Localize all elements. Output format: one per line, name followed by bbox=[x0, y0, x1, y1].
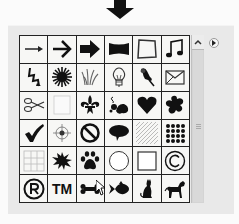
arrow-chevron-icon bbox=[51, 38, 73, 60]
ornament-flower-icon bbox=[108, 94, 130, 116]
heart-icon bbox=[136, 94, 158, 116]
shape-arrow-thin[interactable] bbox=[20, 36, 47, 63]
scroll-thumb[interactable] bbox=[193, 50, 203, 202]
starburst-icon bbox=[51, 66, 73, 88]
shape-no-sign[interactable] bbox=[77, 120, 104, 147]
flyout-menu-button[interactable] bbox=[209, 38, 219, 48]
shape-diagonal-hatch[interactable] bbox=[133, 120, 160, 147]
trademark-label: TM bbox=[52, 181, 72, 197]
shape-music-note[interactable] bbox=[162, 36, 189, 63]
shape-copyright[interactable] bbox=[162, 147, 189, 174]
scroll-grip-line bbox=[196, 124, 201, 125]
registered-icon bbox=[23, 178, 45, 200]
shape-registered[interactable] bbox=[20, 175, 47, 202]
speech-bubble-icon bbox=[108, 122, 130, 144]
shape-frame[interactable] bbox=[133, 36, 160, 63]
grass-icon bbox=[79, 66, 101, 88]
puzzle-blob-icon bbox=[164, 94, 186, 116]
scroll-grip-line bbox=[196, 126, 201, 127]
lightning-icon bbox=[23, 66, 45, 88]
shape-paw-print[interactable] bbox=[77, 147, 104, 174]
checkmark-icon bbox=[23, 122, 45, 144]
shape-ornament-flower[interactable] bbox=[105, 92, 132, 119]
shape-grid: TM bbox=[19, 35, 190, 203]
shape-circle[interactable] bbox=[105, 147, 132, 174]
mouse-cursor-icon bbox=[96, 180, 106, 196]
flyout-menu-icon bbox=[211, 40, 217, 46]
shape-dot-grid[interactable] bbox=[162, 120, 189, 147]
scissors-icon bbox=[23, 94, 45, 116]
shape-square[interactable] bbox=[133, 147, 160, 174]
shape-blank-square[interactable] bbox=[48, 92, 75, 119]
shape-arrow-bold[interactable] bbox=[77, 36, 104, 63]
diagonal-hatch-icon bbox=[136, 122, 158, 144]
down-arrow-icon bbox=[105, 0, 135, 19]
shape-banner[interactable] bbox=[105, 36, 132, 63]
grid-icon bbox=[23, 150, 45, 172]
shape-checkmark[interactable] bbox=[20, 120, 47, 147]
shape-grass[interactable] bbox=[77, 64, 104, 91]
dog-icon bbox=[164, 178, 186, 200]
dot-grid-icon bbox=[164, 122, 186, 144]
square-icon bbox=[136, 150, 158, 172]
shape-speech-bubble[interactable] bbox=[105, 120, 132, 147]
paw-print-icon bbox=[79, 150, 101, 172]
shape-trademark[interactable]: TM bbox=[48, 175, 75, 202]
shape-dog[interactable] bbox=[162, 175, 189, 202]
shape-splat[interactable] bbox=[48, 147, 75, 174]
banner-icon bbox=[108, 38, 130, 60]
shape-pushpin[interactable] bbox=[133, 64, 160, 91]
music-note-icon bbox=[164, 38, 186, 60]
arrow-bold-icon bbox=[79, 38, 101, 60]
cat-icon bbox=[136, 178, 158, 200]
lightbulb-icon bbox=[108, 66, 130, 88]
shape-target[interactable] bbox=[48, 120, 75, 147]
frame-icon bbox=[136, 38, 158, 60]
arrow-thin-icon bbox=[23, 38, 45, 60]
shape-starburst[interactable] bbox=[48, 64, 75, 91]
circle-icon bbox=[108, 150, 130, 172]
splat-icon bbox=[51, 150, 73, 172]
shape-fish[interactable] bbox=[105, 175, 132, 202]
shape-cat[interactable] bbox=[133, 175, 160, 202]
shape-scissors[interactable] bbox=[20, 92, 47, 119]
pushpin-icon bbox=[136, 66, 158, 88]
shape-arrow-chevron[interactable] bbox=[48, 36, 75, 63]
shape-heart[interactable] bbox=[133, 92, 160, 119]
shape-list-scrollbar[interactable] bbox=[191, 35, 204, 203]
fleur-de-lis-icon bbox=[79, 94, 101, 116]
chevron-up-icon bbox=[194, 39, 202, 45]
shape-puzzle-blob[interactable] bbox=[162, 92, 189, 119]
blank-square-icon bbox=[51, 94, 73, 116]
envelope-icon bbox=[164, 66, 186, 88]
fish-icon bbox=[108, 178, 130, 200]
copyright-icon bbox=[164, 150, 186, 172]
shape-lightbulb[interactable] bbox=[105, 64, 132, 91]
shape-fleur-de-lis[interactable] bbox=[77, 92, 104, 119]
shape-lightning[interactable] bbox=[20, 64, 47, 91]
scroll-up-button[interactable] bbox=[192, 35, 204, 50]
shape-envelope[interactable] bbox=[162, 64, 189, 91]
scroll-grip-line bbox=[196, 128, 201, 129]
no-sign-icon bbox=[79, 122, 101, 144]
target-icon bbox=[51, 122, 73, 144]
shape-grid[interactable] bbox=[20, 147, 47, 174]
